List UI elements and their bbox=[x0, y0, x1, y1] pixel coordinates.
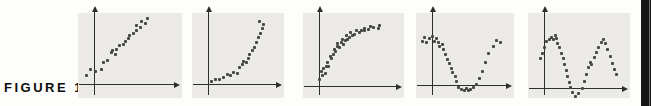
y-axis-arrow-icon bbox=[206, 6, 212, 12]
y-axis bbox=[432, 11, 433, 95]
data-point bbox=[600, 41, 603, 44]
data-point bbox=[122, 43, 125, 46]
data-point bbox=[581, 87, 584, 90]
data-point bbox=[132, 32, 135, 35]
x-axis bbox=[304, 86, 397, 87]
data-point bbox=[251, 49, 254, 52]
data-point bbox=[94, 70, 97, 73]
data-point bbox=[320, 70, 323, 73]
y-axis-arrow-icon bbox=[542, 6, 548, 12]
data-point bbox=[342, 43, 345, 46]
data-point bbox=[450, 67, 453, 70]
data-point bbox=[363, 27, 366, 30]
data-point bbox=[595, 51, 598, 54]
data-point bbox=[253, 46, 256, 49]
data-point bbox=[85, 74, 88, 77]
data-point bbox=[609, 55, 612, 58]
data-point bbox=[245, 61, 248, 64]
data-point bbox=[558, 46, 561, 49]
y-axis bbox=[94, 11, 95, 95]
data-point bbox=[615, 73, 618, 76]
data-point bbox=[565, 69, 568, 72]
data-point bbox=[378, 24, 381, 27]
y-axis bbox=[208, 11, 209, 95]
data-point bbox=[569, 86, 572, 89]
data-point bbox=[338, 46, 341, 49]
data-point bbox=[262, 23, 265, 26]
data-point bbox=[377, 27, 380, 30]
data-point bbox=[597, 46, 600, 49]
data-point bbox=[562, 57, 565, 60]
data-point bbox=[258, 20, 261, 23]
data-point bbox=[593, 56, 596, 59]
data-point bbox=[232, 71, 235, 74]
x-axis-arrow-icon bbox=[174, 82, 180, 88]
data-point bbox=[127, 37, 130, 40]
data-point bbox=[433, 40, 436, 43]
scatter-plot-panel-1 bbox=[78, 13, 182, 98]
data-point bbox=[611, 62, 614, 65]
data-point bbox=[442, 48, 445, 51]
data-point bbox=[214, 78, 217, 81]
x-axis-arrow-icon bbox=[506, 83, 512, 89]
x-axis-arrow-icon bbox=[622, 86, 628, 92]
data-point bbox=[431, 35, 434, 38]
data-point bbox=[585, 73, 588, 76]
data-point bbox=[499, 41, 502, 44]
data-point bbox=[541, 52, 544, 55]
y-axis bbox=[319, 11, 320, 95]
y-axis bbox=[544, 11, 545, 95]
data-point bbox=[492, 45, 495, 48]
data-point bbox=[367, 28, 370, 31]
data-point bbox=[423, 36, 426, 39]
data-point bbox=[326, 61, 329, 64]
data-point bbox=[556, 42, 559, 45]
scatter-plot-panel-2 bbox=[192, 13, 284, 98]
data-point bbox=[574, 95, 577, 98]
data-point bbox=[577, 92, 580, 95]
x-axis bbox=[193, 84, 277, 85]
data-point bbox=[421, 40, 424, 43]
data-point bbox=[345, 34, 348, 37]
data-point bbox=[100, 68, 103, 71]
data-point bbox=[257, 36, 260, 39]
scatter-plot-panel-3 bbox=[303, 13, 404, 98]
data-point bbox=[455, 80, 458, 83]
data-point bbox=[115, 48, 118, 51]
figure-1-scatterplot-strip: FIGURE 1 bbox=[0, 0, 651, 106]
data-point bbox=[259, 32, 262, 35]
data-point bbox=[481, 70, 484, 73]
data-point bbox=[140, 20, 143, 23]
data-point bbox=[238, 66, 241, 69]
data-point bbox=[146, 17, 149, 20]
data-point bbox=[435, 37, 438, 40]
data-point bbox=[602, 38, 605, 41]
figure-label: FIGURE 1 bbox=[4, 80, 84, 95]
data-point bbox=[144, 22, 147, 25]
data-point bbox=[222, 76, 225, 79]
data-point bbox=[428, 37, 431, 40]
y-axis-arrow-icon bbox=[317, 6, 323, 12]
x-axis bbox=[417, 85, 507, 86]
data-point bbox=[210, 80, 213, 83]
data-point bbox=[571, 91, 574, 94]
x-axis-arrow-icon bbox=[396, 84, 402, 90]
data-point bbox=[330, 57, 333, 60]
scatter-plot-panel-5 bbox=[528, 13, 630, 98]
scatter-plot-panel-4 bbox=[416, 13, 514, 98]
data-point bbox=[568, 81, 571, 84]
data-point bbox=[566, 75, 569, 78]
data-point bbox=[606, 48, 609, 51]
data-point bbox=[318, 78, 321, 81]
data-point bbox=[484, 61, 487, 64]
y-axis-arrow-icon bbox=[92, 6, 98, 12]
data-point bbox=[332, 53, 335, 56]
data-point bbox=[353, 33, 356, 36]
plot-background bbox=[192, 13, 284, 98]
data-point bbox=[336, 42, 339, 45]
data-point bbox=[372, 26, 375, 29]
data-point bbox=[446, 58, 449, 61]
data-point bbox=[118, 44, 121, 47]
data-point bbox=[475, 83, 478, 86]
data-point bbox=[454, 75, 457, 78]
